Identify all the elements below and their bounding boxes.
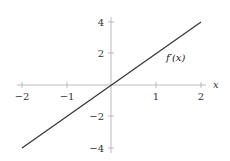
- x-axis-label: x: [213, 79, 219, 90]
- x-tick-label: 1: [153, 91, 159, 102]
- y-tick-label: −4: [89, 143, 104, 154]
- x-tick-label: −1: [60, 91, 75, 102]
- y-tick-label: −2: [89, 111, 104, 122]
- y-tick-label: 4: [98, 17, 104, 28]
- series-label: f′(x): [165, 52, 186, 63]
- x-tick-label: −2: [15, 91, 30, 102]
- chart-canvas: −2 −1 1 2 4 2 −2 −4 x f′(x): [0, 0, 230, 161]
- y-tick-label: 2: [98, 48, 104, 59]
- x-tick-label: 2: [198, 91, 204, 102]
